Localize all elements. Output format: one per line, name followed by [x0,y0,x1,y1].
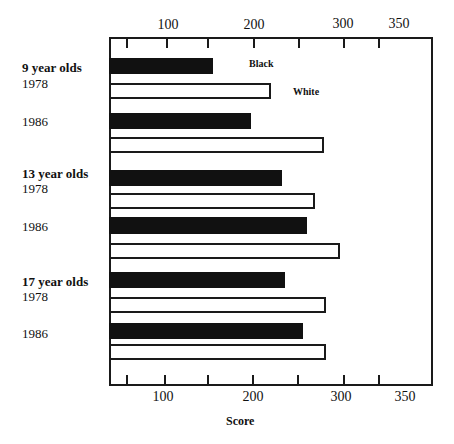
bar-black-17-1986 [109,323,303,339]
top-tick-label: 350 [389,16,410,32]
bottom-tick [297,375,299,385]
bottom-tick [252,375,254,385]
bottom-tick-label: 200 [243,389,264,405]
top-tick [126,38,128,48]
bar-black-9-1978 [109,58,213,74]
top-tick-label: 200 [244,17,265,33]
year-label-1986: 1986 [22,114,48,130]
top-tick [253,38,255,48]
bar-white-13-1986 [109,243,340,259]
bottom-tick [343,375,345,385]
year-label-1986: 1986 [22,219,48,235]
group-label-13: 13 year olds [22,166,88,182]
top-tick [166,38,168,48]
top-tick [207,38,209,48]
legend-white-label: White [293,86,319,97]
top-tick [298,38,300,48]
bar-white-9-1978 [109,83,271,99]
year-label-1978: 1978 [22,289,48,305]
bar-white-17-1986 [109,344,326,360]
bar-black-17-1978 [109,272,285,288]
top-tick-label: 100 [158,17,179,33]
bar-black-13-1978 [109,170,282,186]
year-label-1986: 1986 [22,326,48,342]
top-tick [378,38,380,48]
bottom-tick [164,375,166,385]
bottom-tick [207,375,209,385]
bottom-tick-label: 350 [395,389,416,405]
group-label-9: 9 year olds [22,60,82,76]
bottom-tick-label: 300 [331,389,352,405]
bar-black-9-1986 [109,113,251,129]
top-tick [343,38,345,48]
x-axis-title: Score [226,414,254,429]
top-tick-label: 300 [333,16,354,32]
bar-white-13-1978 [109,193,315,209]
bottom-tick-label: 100 [153,389,174,405]
bottom-tick [126,375,128,385]
group-label-17: 17 year olds [22,274,88,290]
bottom-tick [378,375,380,385]
bar-white-9-1986 [109,137,324,153]
bar-white-17-1978 [109,297,326,313]
legend-black-label: Black [249,58,273,69]
bar-black-13-1986 [109,217,307,234]
year-label-1978: 1978 [22,181,48,197]
year-label-1978: 1978 [22,76,48,92]
